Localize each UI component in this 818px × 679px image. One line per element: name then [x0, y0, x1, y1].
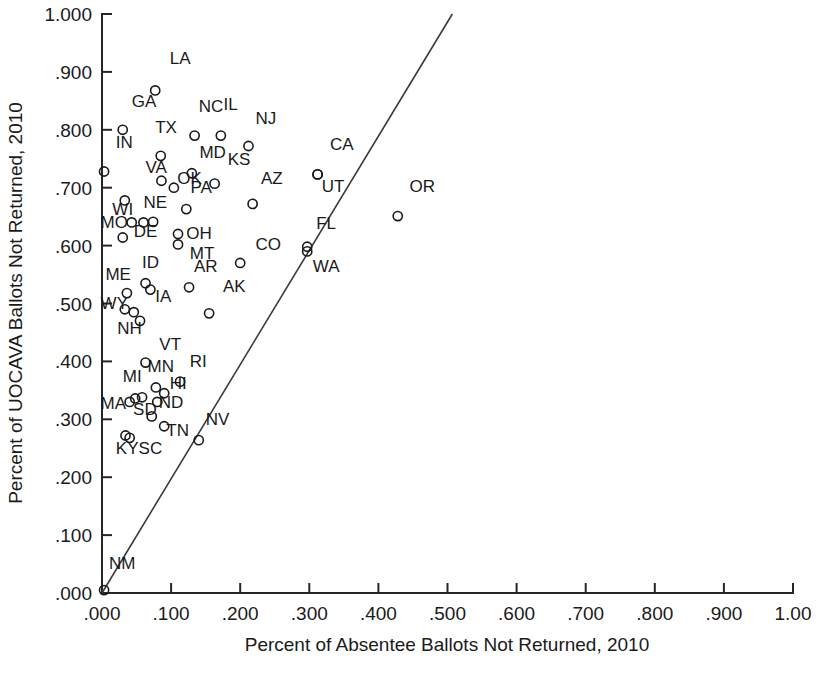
y-axis-tick-labels: .000.100.200.300.400.500.600.700.800.900…	[44, 4, 92, 604]
point-label-MI: MI	[123, 367, 142, 386]
x-axis-title: Percent of Absentee Ballots Not Returned…	[245, 634, 650, 655]
point-label-UT: UT	[322, 177, 345, 196]
point-label-NV: NV	[206, 410, 230, 429]
point-label-IN: IN	[116, 133, 133, 152]
x-axis-tick-labels: .000.100.200.300.400.500.600.700.800.900…	[84, 603, 812, 624]
point-label-IL: IL	[224, 95, 238, 114]
x-tick-label-8: .800	[636, 603, 673, 624]
data-point-GA	[118, 233, 127, 242]
x-tick-label-4: .400	[360, 603, 397, 624]
data-point-CO	[236, 258, 245, 267]
point-label-AZ: AZ	[261, 169, 283, 188]
data-point-IN	[99, 167, 108, 176]
scatter-plot-svg: .000.100.200.300.400.500.600.700.800.900…	[0, 0, 818, 679]
scatter-plot-figure: .000.100.200.300.400.500.600.700.800.900…	[0, 0, 818, 679]
point-label-ID: ID	[142, 253, 159, 272]
point-label-KS: KS	[228, 150, 251, 169]
data-point-NV	[194, 436, 203, 445]
y-tick-label-0: .000	[55, 583, 92, 604]
y-tick-label-4: .400	[55, 351, 92, 372]
data-point-AZ	[248, 199, 257, 208]
x-tick-label-3: .300	[291, 603, 328, 624]
point-label-MD: MD	[199, 143, 225, 162]
point-label-OH: OH	[186, 224, 212, 243]
point-label-TN: TN	[166, 421, 189, 440]
y-tick-label-2: .200	[55, 467, 92, 488]
point-label-FL: FL	[316, 214, 336, 233]
data-point-ID	[141, 279, 150, 288]
x-tick-label-9: .900	[705, 603, 742, 624]
point-label-OR: OR	[409, 177, 435, 196]
y-tick-label-6: .600	[55, 236, 92, 257]
data-point-OH	[173, 229, 182, 238]
y-tick-label-10: 1.000	[44, 4, 92, 25]
x-tick-label-0: .000	[84, 603, 121, 624]
data-point-IA	[146, 285, 155, 294]
y-tick-label-9: .900	[55, 62, 92, 83]
y-tick-label-5: .500	[55, 294, 92, 315]
data-point-labels: LAGANCILNJTXINCAUTMDKSVAOKAZORPAWINEMODE…	[101, 49, 435, 572]
y-axis-title: Percent of UOCAVA Ballots Not Returned, …	[5, 102, 26, 504]
x-tick-label-7: .700	[567, 603, 604, 624]
point-label-NJ: NJ	[255, 109, 276, 128]
point-label-MO: MO	[101, 213, 128, 232]
point-label-TX: TX	[155, 118, 177, 137]
data-point-AK	[205, 309, 214, 318]
data-point-PA	[182, 205, 191, 214]
point-label-DE: DE	[134, 222, 158, 241]
x-tick-label-10: 1.00	[775, 603, 812, 624]
point-label-RI: RI	[190, 352, 207, 371]
point-label-GA: GA	[132, 92, 157, 111]
data-point-OR	[393, 211, 402, 220]
data-point-MN	[151, 383, 160, 392]
point-label-NE: NE	[143, 193, 167, 212]
x-tick-label-2: .200	[222, 603, 259, 624]
point-label-WA: WA	[313, 257, 340, 276]
y-tick-label-3: .300	[55, 409, 92, 430]
point-label-CA: CA	[330, 135, 354, 154]
point-label-KY: KY	[116, 439, 139, 458]
data-point-NC	[190, 131, 199, 140]
point-label-MA: MA	[101, 394, 127, 413]
data-point-AR	[184, 283, 193, 292]
point-label-MN: MN	[148, 357, 174, 376]
point-label-VA: VA	[146, 158, 168, 177]
y-tick-label-8: .800	[55, 120, 92, 141]
x-axis-ticks	[102, 583, 793, 593]
point-label-NH: NH	[117, 319, 142, 338]
y-tick-label-1: .100	[55, 525, 92, 546]
point-label-LA: LA	[170, 49, 191, 68]
point-label-CO: CO	[255, 235, 280, 254]
point-label-SD: SD	[133, 400, 157, 419]
x-tick-label-1: .100	[153, 603, 190, 624]
x-tick-label-5: .500	[429, 603, 466, 624]
point-label-SC: SC	[139, 439, 163, 458]
point-label-AK: AK	[223, 277, 246, 296]
y-tick-label-7: .700	[55, 178, 92, 199]
point-label-WY: WY	[101, 294, 128, 313]
point-label-IA: IA	[155, 287, 172, 306]
point-label-VT: VT	[159, 335, 181, 354]
data-point-IL	[216, 131, 225, 140]
data-point-WY	[129, 308, 138, 317]
point-label-AR: AR	[194, 257, 218, 276]
point-label-NM: NM	[109, 554, 135, 573]
point-label-HI: HI	[170, 374, 187, 393]
point-label-ND: ND	[159, 393, 184, 412]
point-label-NC: NC	[199, 97, 224, 116]
point-label-PA: PA	[190, 178, 212, 197]
x-tick-label-6: .600	[498, 603, 535, 624]
data-point-VA	[157, 176, 166, 185]
data-point-MT	[173, 240, 182, 249]
point-label-ME: ME	[105, 265, 131, 284]
